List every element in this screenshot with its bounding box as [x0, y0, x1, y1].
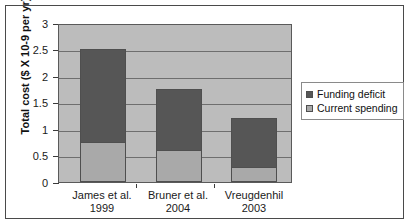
chart-figure: Total cost ($ X 10-9 per yr) 3 2.5 2 1.5… [0, 0, 409, 224]
x-label-james-line2: 1999 [59, 202, 145, 215]
x-tick-mark [214, 184, 215, 188]
legend-label-current-spending: Current spending [317, 102, 398, 114]
legend-label-funding-deficit: Funding deficit [317, 88, 385, 100]
bar-segment-current-spending[interactable] [156, 150, 202, 182]
x-label-bruner: Bruner et al. 2004 [135, 189, 221, 214]
y-tick-label-1: 1 [8, 125, 48, 136]
x-label-vreugdenhil: Vreugdenhil 2003 [211, 189, 297, 214]
legend-swatch-icon [306, 91, 313, 98]
bar-segment-current-spending[interactable] [231, 167, 277, 182]
plot-area [58, 24, 292, 183]
x-label-james-line1: James et al. [59, 189, 145, 202]
x-tick-mark [136, 184, 137, 188]
x-label-vreugdenhil-line1: Vreugdenhil [211, 189, 297, 202]
y-tick-label-3: 3 [8, 19, 48, 30]
x-label-bruner-line1: Bruner et al. [135, 189, 221, 202]
x-label-vreugdenhil-line2: 2003 [211, 202, 297, 215]
y-tick-label-1.5: 1.5 [8, 98, 48, 109]
x-label-bruner-line2: 2004 [135, 202, 221, 215]
bar-segment-funding-deficit[interactable] [156, 89, 202, 151]
bars-layer [59, 25, 291, 182]
legend-item-funding-deficit[interactable]: Funding deficit [306, 88, 400, 100]
y-tick-label-2: 2 [8, 72, 48, 83]
y-tick-label-2.5: 2.5 [8, 45, 48, 56]
bar-segment-funding-deficit[interactable] [80, 49, 126, 143]
y-tick-label-0.5: 0.5 [8, 151, 48, 162]
x-label-james: James et al. 1999 [59, 189, 145, 214]
bar-segment-current-spending[interactable] [80, 142, 126, 182]
legend-swatch-icon [306, 105, 313, 112]
chart-legend[interactable]: Funding deficit Current spending [301, 82, 404, 120]
y-tick-label-0: 0 [8, 178, 48, 189]
legend-item-current-spending[interactable]: Current spending [306, 102, 400, 114]
bar-segment-funding-deficit[interactable] [231, 118, 277, 168]
